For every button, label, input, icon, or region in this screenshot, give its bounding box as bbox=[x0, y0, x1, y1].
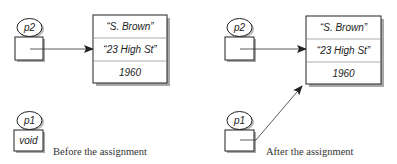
object-person-before: “S. Brown” “23 High St” 1960 bbox=[93, 15, 170, 86]
void-value: void bbox=[19, 135, 38, 146]
variable-box bbox=[225, 130, 254, 151]
variable-p2-before: p2 bbox=[15, 19, 45, 63]
variable-name: p1 bbox=[23, 115, 35, 126]
panel-before: p2 “S. Brown” “23 High St” 1960 p1 void … bbox=[14, 15, 170, 157]
field-name: “S. Brown” bbox=[320, 22, 368, 33]
caption-before: Before the assignment bbox=[53, 146, 147, 157]
variable-name: p2 bbox=[23, 22, 36, 33]
variable-name: p1 bbox=[233, 115, 245, 126]
panel-after: p2 “S. Brown” “23 High St” 1960 p1 After… bbox=[225, 16, 384, 157]
variable-p1-before: p1 void bbox=[14, 112, 45, 154]
variable-p1-after: p1 bbox=[225, 112, 256, 154]
field-address: “23 High St” bbox=[103, 44, 157, 55]
field-year: 1960 bbox=[119, 67, 142, 78]
field-year: 1960 bbox=[332, 68, 355, 79]
object-person-after: “S. Brown” “23 High St” 1960 bbox=[306, 16, 384, 87]
field-name: “S. Brown” bbox=[106, 21, 154, 32]
field-address: “23 High St” bbox=[317, 45, 371, 56]
reference-assignment-diagram: p2 “S. Brown” “23 High St” 1960 p1 void … bbox=[0, 0, 397, 164]
caption-after: After the assignment bbox=[266, 146, 354, 157]
variable-box bbox=[225, 37, 254, 60]
variable-p2-after: p2 bbox=[225, 19, 256, 63]
variable-name: p2 bbox=[233, 22, 246, 33]
variable-box bbox=[15, 37, 43, 60]
